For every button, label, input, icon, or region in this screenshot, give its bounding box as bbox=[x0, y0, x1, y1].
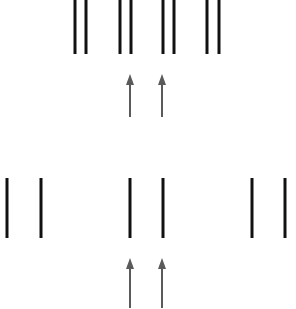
diagram-canvas bbox=[0, 0, 296, 309]
top-row-line-pairs bbox=[75, 0, 219, 54]
top-row-up-arrow-icon-1 bbox=[126, 74, 134, 117]
top-row-up-arrow-icon-2 bbox=[158, 74, 166, 117]
top-row-arrows bbox=[126, 74, 166, 117]
bottom-row-up-arrow-icon-2 bbox=[158, 258, 166, 308]
bottom-row-arrows bbox=[126, 258, 166, 308]
bottom-row-line-pairs bbox=[7, 178, 285, 238]
bottom-row-up-arrow-icon-1 bbox=[126, 258, 134, 308]
